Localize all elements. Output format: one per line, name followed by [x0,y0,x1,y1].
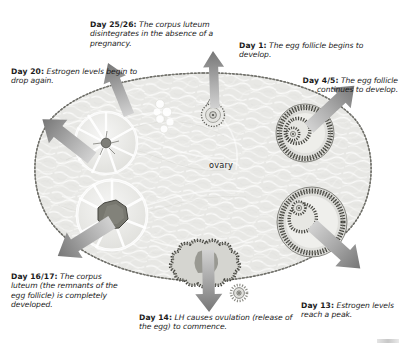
label-day-4-5-day: Day 4/5: [303,76,339,85]
label-day-14: Day 14: LH causes ovulation (release of … [139,303,299,332]
label-day-13: Day 13: Estrogen levels reach a peak. [301,291,401,320]
structure-released-egg [231,285,247,301]
label-day-4-5: Day 4/5: The egg follicle continues to d… [300,66,398,95]
label-day-13-day: Day 13: [301,301,334,310]
label-day-16-17: Day 16/17: The corpus luteum (the remnan… [11,262,129,310]
label-day-14-day: Day 14: [139,313,172,322]
label-day-25-26-day: Day 25/26: [90,20,137,29]
label-day-1: Day 1: The egg follicle begins to develo… [239,31,367,60]
page-corner-mark [377,339,399,343]
ovary-center-label: ovary [186,160,256,170]
label-day-16-17-day: Day 16/17: [11,272,58,281]
label-day-25-26: Day 25/26: The corpus luteum disintegrat… [90,10,222,48]
label-day-20: Day 20: Estrogen levels begin to drop ag… [11,57,141,86]
label-day-1-day: Day 1: [239,41,267,50]
label-day-20-day: Day 20: [11,67,44,76]
ovary-diagram: Day 25/26: The corpus luteum disintegrat… [0,0,405,346]
